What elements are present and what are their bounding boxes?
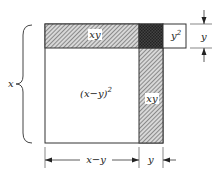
left-brace xyxy=(16,25,32,143)
bottom-dim-x-minus-y-label: x−y xyxy=(86,154,106,165)
overlap-square xyxy=(139,24,163,48)
bottom-dim-y-label: y xyxy=(147,154,154,165)
right-dim-label: y xyxy=(200,31,207,42)
right-xy-label: xy xyxy=(146,93,158,104)
geometry-diagram: xy xy y2 (x−y)2 x y x−y y xyxy=(0,0,216,171)
top-xy-label: xy xyxy=(89,29,101,40)
left-brace-label: x xyxy=(8,78,14,89)
